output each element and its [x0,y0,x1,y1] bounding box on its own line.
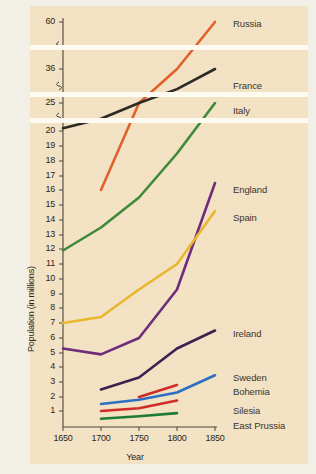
chart-root: 6036252019181716151413121110987654321165… [0,0,316,474]
axis-break-band-2 [30,92,308,97]
y-tick-label: 1 [33,405,55,415]
y-tick-label: 11 [33,258,55,268]
series-label-silesia: Silesia [233,405,260,416]
y-tick-label: 17 [33,170,55,180]
y-tick-label: 36 [33,63,55,73]
y-axis-title: Population (in millions) [26,266,36,352]
y-tick-label: 2 [33,391,55,401]
series-label-sweden: Sweden [233,372,267,383]
x-tick-label: 1800 [160,433,194,443]
y-tick-label: 14 [33,214,55,224]
series-label-east-prussia: East Prussia [233,420,285,431]
axis-break-band-1 [30,45,308,50]
axis-break-band-3 [30,118,308,123]
y-tick-label: 20 [33,125,55,135]
y-tick-label: 6 [33,332,55,342]
series-label-england: England [233,184,267,195]
y-tick-label: 7 [33,317,55,327]
y-tick-label: 4 [33,361,55,371]
y-tick-label: 19 [33,140,55,150]
series-line-east-prussia [101,413,177,419]
y-tick-label: 18 [33,155,55,165]
y-tick-label: 25 [33,97,55,107]
y-tick-label: 15 [33,199,55,209]
axis-break-mark [57,82,62,90]
x-tick-label: 1750 [122,433,156,443]
y-tick-label: 13 [33,229,55,239]
series-label-italy: Italy [233,105,250,116]
y-tick-label: 9 [33,288,55,298]
series-label-russia: Russia [233,18,261,29]
y-tick-label: 8 [33,302,55,312]
series-line-spain [63,211,215,323]
y-tick-label: 3 [33,376,55,386]
y-tick-label: 12 [33,243,55,253]
x-tick-label: 1700 [84,433,118,443]
x-tick-label: 1850 [198,433,232,443]
y-tick-label: 10 [33,273,55,283]
x-axis-title: Year [75,452,195,462]
series-line-ireland [101,331,215,390]
series-label-spain: Spain [233,212,257,223]
series-label-ireland: Ireland [233,328,261,339]
series-line-england [63,183,215,354]
series-label-france: France [233,80,262,91]
y-tick-label: 5 [33,347,55,357]
series-line-italy [63,103,215,251]
y-tick-label: 60 [33,16,55,26]
series-label-bohemia: Bohemia [233,386,270,397]
x-tick-label: 1650 [46,433,80,443]
y-tick-label: 16 [33,184,55,194]
